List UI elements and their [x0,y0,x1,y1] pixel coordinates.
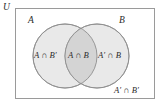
set-a-label: A [28,16,34,26]
universe-label: U [3,3,10,13]
set-b-label: B [119,16,125,26]
region-label-a-only: A ∩ B′ [34,51,57,60]
region-label-intersection: A ∩ B [68,51,89,60]
region-label-b-only: A′ ∩ B [98,51,121,60]
venn-diagram-figure: U A B A ∩ B′ A ∩ B A′ ∩ B A′ ∩ B′ [0,0,161,108]
region-label-complement: A′ ∩ B′ [114,86,139,95]
